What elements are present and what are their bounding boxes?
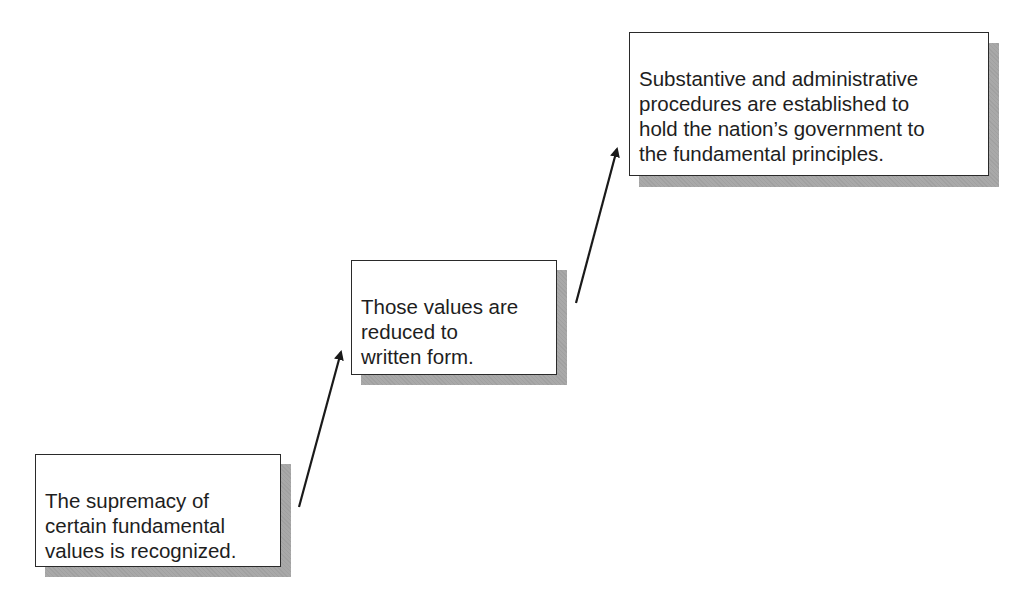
arrow-step1-to-step2: [299, 352, 341, 507]
arrows-layer: [0, 0, 1031, 605]
arrow-step2-to-step3: [576, 149, 617, 303]
